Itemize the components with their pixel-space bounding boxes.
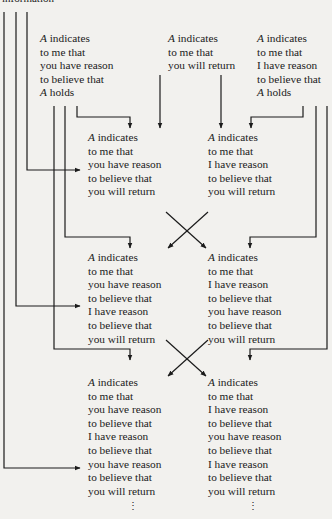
continuation-dots-left: ⋮	[128, 503, 138, 508]
block-line: you have reason	[88, 458, 161, 472]
block-line: I have reason	[88, 430, 161, 444]
block-line: A indicates	[88, 251, 161, 265]
block-line: to believe that	[208, 471, 281, 485]
block-row2-right: A indicates to me that I have reason to …	[208, 251, 281, 346]
block-line: you will return	[88, 485, 161, 499]
block-row1-right: A indicates to me that I have reason to …	[208, 131, 275, 199]
block-line: to believe that	[208, 417, 281, 431]
block-top-left: A indicates to me that you have reason t…	[40, 32, 113, 100]
block-line: I have reason	[257, 59, 321, 73]
block-line: to me that	[40, 46, 113, 60]
block-line: to believe that	[88, 319, 161, 333]
block-line: A indicates	[88, 131, 161, 145]
block-line: you have reason	[208, 305, 281, 319]
block-line: to believe that	[208, 319, 281, 333]
block-line: you will return	[88, 333, 161, 347]
block-line: to me that	[88, 390, 161, 404]
block-line: A indicates	[168, 32, 235, 46]
block-line: to believe that	[88, 417, 161, 431]
block-row3-left: A indicates to me that you have reason t…	[88, 376, 161, 498]
block-line: A holds	[257, 86, 321, 100]
block-line: you have reason	[88, 278, 161, 292]
block-line: A indicates	[208, 251, 281, 265]
block-line: I have reason	[208, 403, 281, 417]
block-line: to believe that	[257, 73, 321, 87]
block-row3-right: A indicates to me that I have reason to …	[208, 376, 281, 498]
block-line: to me that	[208, 145, 275, 159]
block-line: you have reason	[40, 59, 113, 73]
block-row2-left: A indicates to me that you have reason t…	[88, 251, 161, 346]
block-line: I have reason	[208, 458, 281, 472]
block-line: to believe that	[88, 444, 161, 458]
block-line: to believe that	[88, 292, 161, 306]
block-line: A indicates	[208, 376, 281, 390]
block-line: to believe that	[208, 292, 281, 306]
block-line: to me that	[168, 46, 235, 60]
block-line: to believe that	[208, 444, 281, 458]
block-line: you have reason	[208, 430, 281, 444]
block-line: to me that	[88, 265, 161, 279]
block-row1-left: A indicates to me that you have reason t…	[88, 131, 161, 199]
block-line: A indicates	[257, 32, 321, 46]
block-line: I have reason	[88, 305, 161, 319]
block-line: you will return	[88, 185, 161, 199]
block-line: you will return	[208, 485, 281, 499]
block-line: I have reason	[208, 158, 275, 172]
continuation-dots-right: ⋮	[248, 503, 258, 508]
block-line: you have reason	[88, 158, 161, 172]
block-line: you have reason	[88, 403, 161, 417]
block-line: A indicates	[208, 131, 275, 145]
block-line: you will return	[208, 333, 281, 347]
block-line: A indicates	[40, 32, 113, 46]
block-line: to me that	[88, 145, 161, 159]
block-line: to believe that	[88, 471, 161, 485]
block-line: you will return	[208, 185, 275, 199]
block-line: to believe that	[208, 172, 275, 186]
block-top-middle: A indicates to me that you will return	[168, 32, 235, 73]
block-line: A indicates	[88, 376, 161, 390]
block-line: I have reason	[208, 278, 281, 292]
block-line: you will return	[168, 59, 235, 73]
block-line: to me that	[208, 390, 281, 404]
block-line: to me that	[257, 46, 321, 60]
block-line: to me that	[208, 265, 281, 279]
block-line: to believe that	[40, 73, 113, 87]
block-line: to believe that	[88, 172, 161, 186]
block-top-right: A indicates to me that I have reason to …	[257, 32, 321, 100]
block-line: A holds	[40, 86, 113, 100]
